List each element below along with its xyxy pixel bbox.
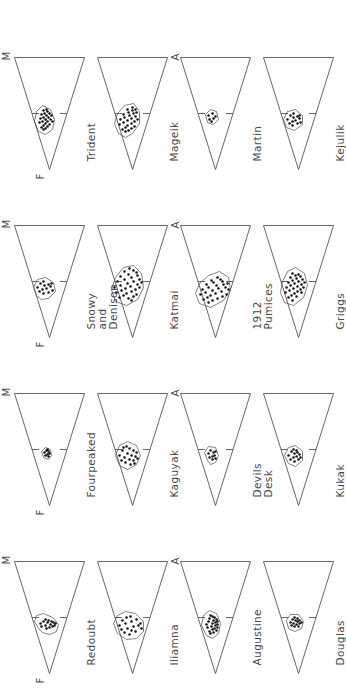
data-point bbox=[299, 456, 302, 459]
data-point bbox=[134, 455, 137, 458]
panel-label-kukak: Kukak bbox=[334, 464, 345, 497]
data-point bbox=[44, 454, 47, 457]
data-point bbox=[39, 117, 42, 120]
data-point bbox=[43, 284, 46, 287]
ternary-axes bbox=[259, 197, 337, 347]
data-point bbox=[128, 633, 131, 636]
data-point bbox=[207, 286, 210, 289]
data-point bbox=[46, 125, 49, 128]
data-point bbox=[132, 280, 135, 283]
data-point bbox=[124, 461, 127, 464]
data-point bbox=[41, 120, 44, 123]
data-point bbox=[296, 617, 299, 620]
data-point bbox=[290, 294, 293, 297]
ternary-panel-trident: FMTrident bbox=[10, 29, 88, 179]
data-point bbox=[48, 123, 51, 126]
data-point bbox=[132, 449, 135, 452]
data-point bbox=[133, 462, 136, 465]
data-point bbox=[208, 617, 211, 620]
data-point bbox=[220, 290, 223, 293]
data-point bbox=[207, 301, 210, 304]
axis-edge-fa bbox=[49, 561, 84, 673]
data-point bbox=[210, 279, 213, 282]
data-point bbox=[128, 458, 131, 461]
data-point bbox=[126, 282, 129, 285]
data-point bbox=[209, 614, 212, 617]
data-point bbox=[295, 449, 298, 452]
data-point bbox=[286, 118, 289, 121]
data-point bbox=[127, 297, 130, 300]
data-point bbox=[290, 624, 293, 627]
data-point bbox=[208, 118, 211, 121]
data-point bbox=[126, 108, 129, 111]
axis-edge-fa bbox=[132, 561, 167, 673]
data-point bbox=[130, 629, 133, 632]
axis-edge-fa bbox=[49, 393, 84, 505]
data-point bbox=[124, 622, 127, 625]
data-point bbox=[128, 114, 131, 117]
axis-edge-fm bbox=[180, 561, 215, 673]
data-point bbox=[208, 630, 211, 633]
axis-edge-fm bbox=[97, 393, 132, 505]
data-point bbox=[134, 288, 137, 291]
data-point bbox=[294, 619, 297, 622]
data-point bbox=[125, 445, 128, 448]
ternary-axes bbox=[10, 533, 88, 683]
data-point bbox=[129, 285, 132, 288]
data-point bbox=[288, 289, 291, 292]
data-point bbox=[289, 284, 292, 287]
ternary-axes bbox=[176, 533, 254, 683]
data-point bbox=[297, 458, 300, 461]
data-point bbox=[127, 129, 130, 132]
data-point bbox=[134, 115, 137, 118]
data-point bbox=[291, 120, 294, 123]
data-point bbox=[38, 121, 41, 124]
data-point bbox=[214, 457, 217, 460]
axis-edge-fa bbox=[298, 57, 333, 169]
axis-edge-fm bbox=[263, 561, 298, 673]
data-point bbox=[135, 111, 138, 114]
data-point bbox=[125, 616, 128, 619]
data-point bbox=[126, 119, 129, 122]
data-point bbox=[42, 620, 45, 623]
data-point bbox=[44, 624, 47, 627]
apex-label-m: M bbox=[0, 555, 11, 564]
data-point bbox=[291, 299, 294, 302]
data-point bbox=[212, 631, 215, 634]
data-field-outline bbox=[204, 446, 218, 464]
ternary-axes bbox=[176, 197, 254, 347]
data-point bbox=[227, 288, 230, 291]
panel-label-douglas: Douglas bbox=[334, 620, 345, 665]
data-point bbox=[45, 287, 48, 290]
ternary-panel-katmai: AKatmai bbox=[93, 197, 171, 347]
ternary-panel-kejulik: Kejulik bbox=[259, 29, 337, 179]
data-point bbox=[295, 277, 298, 280]
data-point bbox=[135, 618, 138, 621]
data-point bbox=[211, 458, 214, 461]
data-point bbox=[210, 625, 213, 628]
ternary-panel-kukak: Kukak bbox=[259, 365, 337, 515]
data-point bbox=[136, 274, 139, 277]
data-point bbox=[130, 117, 133, 120]
ternary-axes bbox=[93, 533, 171, 683]
data-point bbox=[131, 106, 134, 109]
ternary-axes bbox=[93, 365, 171, 515]
data-point bbox=[39, 282, 42, 285]
data-point bbox=[211, 455, 214, 458]
data-point bbox=[123, 116, 126, 119]
axis-edge-fa bbox=[215, 225, 250, 337]
data-point bbox=[292, 622, 295, 625]
data-point bbox=[127, 273, 130, 276]
data-point bbox=[129, 463, 132, 466]
data-point bbox=[120, 459, 123, 462]
ternary-panel-martin: Martin bbox=[176, 29, 254, 179]
data-point bbox=[115, 291, 118, 294]
ternary-axes bbox=[176, 365, 254, 515]
data-point bbox=[140, 281, 143, 284]
apex-label-m: M bbox=[0, 387, 11, 396]
ternary-panel-iliamna: AIliamna bbox=[93, 533, 171, 683]
data-point bbox=[207, 452, 210, 455]
data-point bbox=[285, 286, 288, 289]
data-point bbox=[138, 286, 141, 289]
ternary-panel-augustine: Augustine bbox=[176, 533, 254, 683]
